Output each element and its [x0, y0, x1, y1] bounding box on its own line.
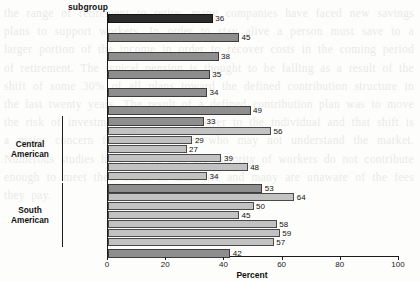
- x-axis-tick-label: 20: [161, 260, 170, 269]
- x-axis-tick-label: 100: [391, 260, 404, 269]
- bar-value-label: 64: [297, 193, 306, 202]
- bar: [108, 127, 271, 135]
- bar: [108, 202, 254, 210]
- group-label-line1: South: [0, 205, 60, 215]
- bar: [108, 154, 221, 162]
- bar-value-label: 35: [212, 70, 221, 79]
- bar-value-label: 45: [241, 33, 250, 42]
- bar: [108, 238, 274, 246]
- bar-value-label: 45: [241, 211, 250, 220]
- bar-value-label: 27: [189, 145, 198, 154]
- x-axis-tick-label: 80: [335, 260, 344, 269]
- group-bracket-line: [62, 116, 63, 181]
- bar: [108, 52, 219, 61]
- x-axis-tick-label: 60: [277, 260, 286, 269]
- bar-value-label: 39: [224, 154, 233, 163]
- bar-value-label: 58: [279, 220, 288, 229]
- bar: [108, 163, 248, 171]
- x-axis-title: Percent: [236, 270, 267, 280]
- bar: [108, 70, 210, 79]
- bar: [108, 145, 187, 153]
- bar-value-label: 36: [215, 14, 224, 23]
- bar: [108, 172, 207, 180]
- bar: [108, 220, 277, 228]
- bar: [108, 88, 207, 97]
- bar: [108, 106, 251, 115]
- group-label-line2: American: [0, 215, 60, 225]
- bar-value-label: 33: [207, 117, 216, 126]
- bar-value-label: 56: [273, 127, 282, 136]
- bar-value-label: 53: [265, 184, 274, 193]
- bar-value-label: 34: [209, 172, 218, 181]
- group-label: SouthAmerican: [0, 205, 60, 225]
- bar: [108, 249, 230, 258]
- bar: [108, 117, 204, 126]
- x-axis-tick-label: 0: [105, 260, 109, 269]
- bar: [108, 14, 213, 23]
- bar: [108, 229, 280, 237]
- bar-value-label: 34: [209, 88, 218, 97]
- bar-value-label: 59: [282, 229, 291, 238]
- bar: [108, 33, 239, 42]
- bar: [108, 136, 192, 144]
- group-label-line1: Central: [0, 139, 60, 149]
- bar: [108, 193, 294, 201]
- group-label: CentralAmerican: [0, 139, 60, 159]
- bar-value-label: 57: [276, 238, 285, 247]
- subgroup-header-label: subgroup: [68, 2, 108, 12]
- bar-value-label: 49: [253, 106, 262, 115]
- bar-value-label: 42: [233, 249, 242, 258]
- bar-value-label: 50: [256, 202, 265, 211]
- bar: [108, 184, 262, 193]
- group-label-line2: American: [0, 149, 60, 159]
- bar-value-label: 38: [221, 52, 230, 61]
- bar: [108, 211, 239, 219]
- group-bracket-line: [62, 183, 63, 247]
- bar-value-label: 48: [250, 163, 259, 172]
- bar-value-label: 29: [195, 136, 204, 145]
- bar-chart: subgroup Hispanic36Cuban45Dominican38Mex…: [0, 0, 420, 281]
- x-axis-tick-label: 40: [219, 260, 228, 269]
